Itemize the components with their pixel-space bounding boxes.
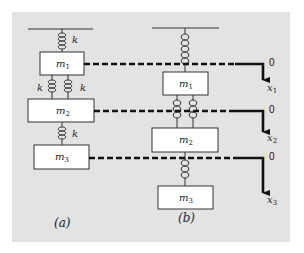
- caption-b: (b): [178, 211, 195, 225]
- spring-label-k4: k: [72, 128, 78, 139]
- mass-spring-diagram: k m1 k k m2 k m3 (a) m1 m2: [0, 0, 304, 253]
- axis-x3-origin-label: 0: [269, 151, 275, 162]
- panel-background: [12, 12, 290, 242]
- spring-label-k3: k: [80, 82, 86, 93]
- spring-label-k1: k: [72, 34, 78, 45]
- spring-label-k2: k: [37, 82, 43, 93]
- axis-x2-origin-label: 0: [269, 104, 275, 115]
- caption-a: (a): [54, 216, 71, 230]
- axis-x1-origin-label: 0: [269, 57, 275, 68]
